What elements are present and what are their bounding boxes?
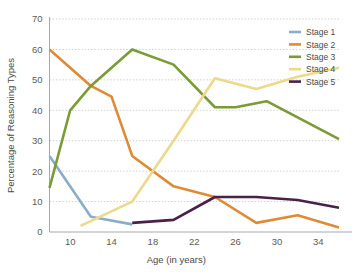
legend-label-stage-5: Stage 5 [306, 77, 336, 87]
series-line-stage-4 [81, 68, 339, 226]
legend-label-stage-1: Stage 1 [306, 27, 336, 37]
y-tick-label: 10 [32, 196, 43, 207]
y-axis-title: Percentage of Reasoning Types [5, 58, 16, 193]
x-tick-label: 22 [189, 236, 200, 247]
x-tick-label: 30 [272, 236, 283, 247]
y-tick-label: 50 [32, 74, 43, 85]
x-axis-title: Age (in years) [147, 254, 206, 265]
y-tick-label: 0 [37, 226, 42, 237]
x-tick-label: 34 [313, 236, 324, 247]
series-line-stage-1 [50, 156, 133, 224]
chart-canvas: 010203040506070 10141822263034 Stage 1St… [0, 0, 359, 274]
x-tick-label: 10 [65, 236, 76, 247]
y-tick-labels: 010203040506070 [32, 13, 43, 237]
y-tick-label: 60 [32, 44, 43, 55]
y-tick-label: 70 [32, 13, 43, 24]
legend-label-stage-3: Stage 3 [306, 52, 336, 62]
x-tick-label: 18 [148, 236, 159, 247]
x-tick-labels: 10141822263034 [65, 236, 324, 247]
legend-label-stage-4: Stage 4 [306, 64, 336, 74]
y-tick-label: 40 [32, 105, 43, 116]
y-tick-label: 20 [32, 166, 43, 177]
x-tick-label: 26 [230, 236, 241, 247]
legend-label-stage-2: Stage 2 [306, 40, 336, 50]
series-lines-group [50, 49, 340, 227]
x-tick-label: 14 [106, 236, 117, 247]
y-tick-label: 30 [32, 135, 43, 146]
line-chart: 010203040506070 10141822263034 Stage 1St… [0, 0, 359, 274]
